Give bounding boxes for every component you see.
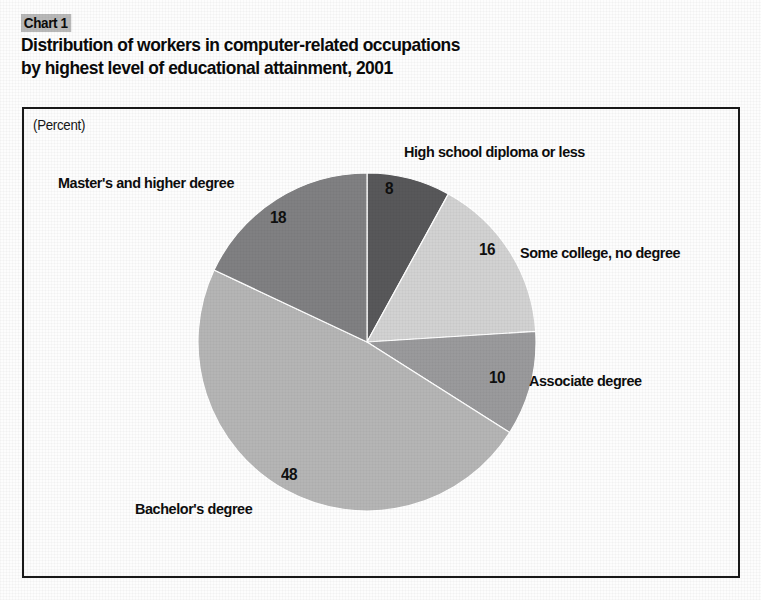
- chart-number-badge: Chart 1: [21, 14, 71, 32]
- axis-unit-label: (Percent): [33, 117, 85, 133]
- slice-value-associate: 10: [489, 369, 505, 387]
- slice-label-associate: Associate degree: [529, 372, 642, 390]
- page-title: Distribution of workers in computer-rela…: [21, 33, 679, 79]
- slice-value-masters: 18: [270, 209, 286, 227]
- slice-label-some-college: Some college, no degree: [520, 244, 680, 262]
- slice-value-high-school: 8: [385, 180, 393, 198]
- slice-label-high-school: High school diploma or less: [404, 143, 585, 161]
- slice-value-bachelors: 48: [281, 466, 297, 484]
- pie-slice-group: [198, 173, 536, 511]
- page-title-line-2: by highest level of educational attainme…: [21, 56, 679, 79]
- slice-label-bachelors: Bachelor's degree: [135, 500, 252, 518]
- pie-chart-svg: [197, 172, 537, 512]
- slice-label-masters: Master's and higher degree: [58, 174, 234, 192]
- pie-chart: [197, 172, 537, 512]
- slice-value-some-college: 16: [479, 241, 495, 259]
- page-title-line-1: Distribution of workers in computer-rela…: [21, 33, 679, 56]
